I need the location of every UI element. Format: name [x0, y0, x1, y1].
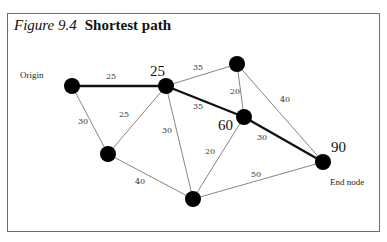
node-25 [158, 78, 174, 94]
path-edge-n60-end [244, 117, 323, 162]
weight-n25-n60: 35 [193, 102, 203, 111]
node-top [229, 56, 245, 72]
weight-bottom-end: 50 [251, 170, 261, 179]
weight-top-end: 40 [280, 95, 290, 104]
weight-top-n60: 20 [230, 87, 240, 96]
nodes [64, 56, 331, 207]
edges [72, 64, 323, 199]
cumulative-25: 25 [150, 63, 165, 79]
edge-left-n25 [108, 86, 166, 154]
weight-n60-end: 30 [257, 133, 267, 142]
weight-n60-bottom: 20 [205, 147, 215, 156]
weight-origin-n25: 25 [106, 72, 116, 81]
node-end [315, 154, 331, 170]
cumulative-60: 60 [218, 117, 233, 133]
origin-label: Origin [20, 70, 44, 80]
node-origin [64, 78, 80, 94]
node-60 [236, 109, 252, 125]
weight-left-bottom: 40 [135, 177, 145, 186]
cumulative-90: 90 [331, 139, 346, 155]
weight-left-n25: 25 [119, 110, 129, 119]
edge-left-bottom [108, 154, 193, 199]
weight-origin-left: 30 [78, 117, 88, 126]
edge-n25-bottom [166, 86, 193, 199]
node-bottom [185, 191, 201, 207]
end-node-label: End node [330, 177, 364, 187]
node-left [100, 146, 116, 162]
shortest-path-graph: 25 30 25 35 35 30 20 40 30 20 40 50 25 6… [0, 0, 387, 242]
weight-n25-top: 35 [193, 63, 203, 72]
weight-n25-bottom: 30 [162, 126, 172, 135]
